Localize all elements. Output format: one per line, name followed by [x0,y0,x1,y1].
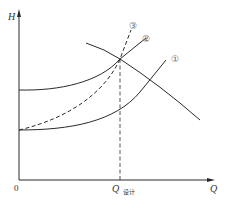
y-axis-arrow-icon [17,9,21,17]
x-axis-arrow-icon [207,178,215,182]
curve-label-1: ① [171,54,179,64]
design-flow-label-main: Q [112,183,120,194]
curve-label-2: ② [142,34,150,44]
pump-curve-diagram: H Q 0 Q 设计 ③ ② ① [0,0,234,208]
design-flow-label-sub: 设计 [123,188,135,196]
system-curve-3 [19,30,131,130]
curve-label-3: ③ [129,21,137,31]
system-curve-1 [19,60,166,130]
x-axis-label: Q [210,183,218,194]
y-axis-label: H [7,11,16,22]
pump-curve [86,43,200,120]
origin-label: 0 [14,183,19,193]
design-flow-label: Q 设计 [112,178,135,196]
